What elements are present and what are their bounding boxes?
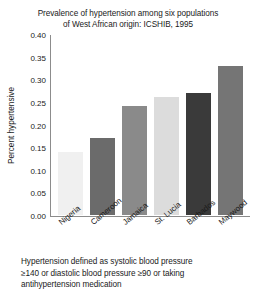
y-tick-label: 0.35: [30, 53, 46, 62]
y-axis-label: Percent hypertensive: [6, 35, 18, 216]
bar-st-lucia: [154, 97, 179, 215]
y-axis-line: [50, 35, 51, 216]
chart-title-line-1: Prevalence of hypertension among six pop…: [0, 9, 256, 20]
y-tick-label: 0.40: [30, 31, 46, 40]
chart-title: Prevalence of hypertension among six pop…: [0, 9, 256, 30]
caption-line-1: Hypertension defined as systolic blood p…: [21, 256, 246, 268]
chart-title-line-2: of West African origin: ICSHIB, 1995: [0, 20, 256, 31]
y-tick-label: 0.05: [30, 189, 46, 198]
x-axis-tick-labels: Nigeria Cameroon Jamaica St. Lucia Barba…: [50, 217, 256, 253]
y-tick-label: 0.10: [30, 166, 46, 175]
bar-jamaica: [122, 106, 147, 215]
caption-line-3: antihypertension medication: [21, 279, 246, 291]
chart-figure: Prevalence of hypertension among six pop…: [0, 0, 256, 303]
y-tick-label: 0.20: [30, 121, 46, 130]
chart-caption: Hypertension defined as systolic blood p…: [21, 256, 246, 291]
y-tick-label: 0.30: [30, 76, 46, 85]
y-tick-label: 0.00: [30, 212, 46, 221]
y-tick-label: 0.15: [30, 144, 46, 153]
caption-line-2: ≥140 or diastolic blood pressure ≥90 or …: [21, 268, 246, 280]
bar-barbados: [186, 93, 211, 215]
plot-area: 0.40 0.35 0.30 0.25 0.20 0.15 0.10 0.05 …: [50, 35, 250, 216]
bar-nigeria: [58, 152, 83, 215]
y-tick-label: 0.25: [30, 98, 46, 107]
bar-maywood: [218, 66, 243, 215]
